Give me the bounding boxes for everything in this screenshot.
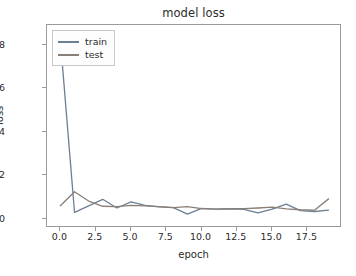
x-tick-label: 15.0 <box>251 231 291 242</box>
legend-label: train <box>85 35 107 48</box>
x-axis-label: epoch <box>46 249 341 260</box>
legend-item-test[interactable]: test <box>58 48 107 61</box>
y-axis-label: loss <box>0 106 5 125</box>
x-tick-label: 2.5 <box>75 231 115 242</box>
y-tick-label: 6 <box>0 82 5 93</box>
chart-title: model loss <box>46 6 341 20</box>
y-tick-label: 0 <box>0 212 5 223</box>
series-line-train <box>60 41 328 214</box>
x-tick-label: 10.0 <box>181 231 221 242</box>
x-tick-label: 12.5 <box>216 231 256 242</box>
chart-legend: traintest <box>52 30 115 66</box>
y-tick-label: 4 <box>0 125 5 136</box>
x-tick-label: 5.0 <box>110 231 150 242</box>
legend-label: test <box>85 48 103 61</box>
matplotlib-figure: model loss loss epoch 02468 0.02.55.07.5… <box>0 0 356 276</box>
y-tick-label: 8 <box>0 38 5 49</box>
legend-line-swatch <box>58 54 79 56</box>
x-tick-label: 0.0 <box>39 231 79 242</box>
x-tick-label: 17.5 <box>286 231 326 242</box>
legend-line-swatch <box>58 41 79 43</box>
y-tick-label: 2 <box>0 169 5 180</box>
x-tick-label: 7.5 <box>145 231 185 242</box>
legend-item-train[interactable]: train <box>58 35 107 48</box>
